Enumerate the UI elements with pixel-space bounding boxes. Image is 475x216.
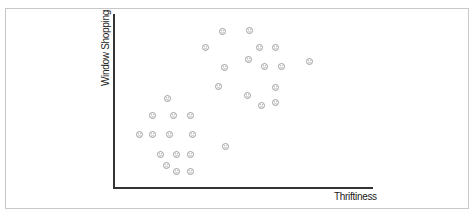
data-point xyxy=(189,131,196,138)
face-icon xyxy=(187,112,194,119)
face-icon xyxy=(221,64,228,71)
face-icon xyxy=(187,151,194,158)
data-point xyxy=(215,83,222,90)
face-icon xyxy=(278,63,285,70)
data-point xyxy=(245,56,252,63)
face-icon xyxy=(256,44,263,51)
data-point xyxy=(149,112,156,119)
data-point xyxy=(221,64,228,71)
face-icon xyxy=(170,112,177,119)
data-point xyxy=(173,151,180,158)
face-icon xyxy=(258,102,265,109)
face-icon xyxy=(261,63,268,70)
data-point xyxy=(222,143,229,150)
face-icon xyxy=(272,84,279,91)
data-point xyxy=(187,112,194,119)
plot-area xyxy=(114,14,373,188)
data-point xyxy=(166,131,173,138)
face-icon xyxy=(246,27,253,34)
face-icon xyxy=(164,95,171,102)
data-point xyxy=(164,95,171,102)
data-point xyxy=(187,151,194,158)
face-icon xyxy=(149,112,156,119)
data-point xyxy=(272,84,279,91)
face-icon xyxy=(136,131,143,138)
face-icon xyxy=(173,151,180,158)
face-icon xyxy=(202,44,209,51)
data-point xyxy=(261,63,268,70)
data-point xyxy=(163,162,170,169)
data-point xyxy=(272,44,279,51)
face-icon xyxy=(149,131,156,138)
face-icon xyxy=(244,92,251,99)
face-icon xyxy=(166,131,173,138)
y-axis-label: Window Shopping xyxy=(100,10,111,86)
data-point xyxy=(272,99,279,106)
face-icon xyxy=(189,131,196,138)
face-icon xyxy=(222,143,229,150)
data-point xyxy=(136,131,143,138)
data-point xyxy=(278,63,285,70)
face-icon xyxy=(215,83,222,90)
face-icon xyxy=(272,44,279,51)
data-point xyxy=(157,151,164,158)
data-point xyxy=(149,131,156,138)
data-point xyxy=(202,44,209,51)
face-icon xyxy=(187,168,194,175)
face-icon xyxy=(306,58,313,65)
face-icon xyxy=(173,168,180,175)
data-point xyxy=(306,58,313,65)
face-icon xyxy=(157,151,164,158)
data-point xyxy=(246,27,253,34)
data-point xyxy=(258,102,265,109)
data-point xyxy=(244,92,251,99)
data-point xyxy=(173,168,180,175)
face-icon xyxy=(272,99,279,106)
x-axis-label: Thriftiness xyxy=(334,191,377,202)
data-point xyxy=(187,168,194,175)
data-point xyxy=(170,112,177,119)
face-icon xyxy=(163,162,170,169)
data-point xyxy=(256,44,263,51)
data-point xyxy=(219,28,226,35)
face-icon xyxy=(219,28,226,35)
face-icon xyxy=(245,56,252,63)
